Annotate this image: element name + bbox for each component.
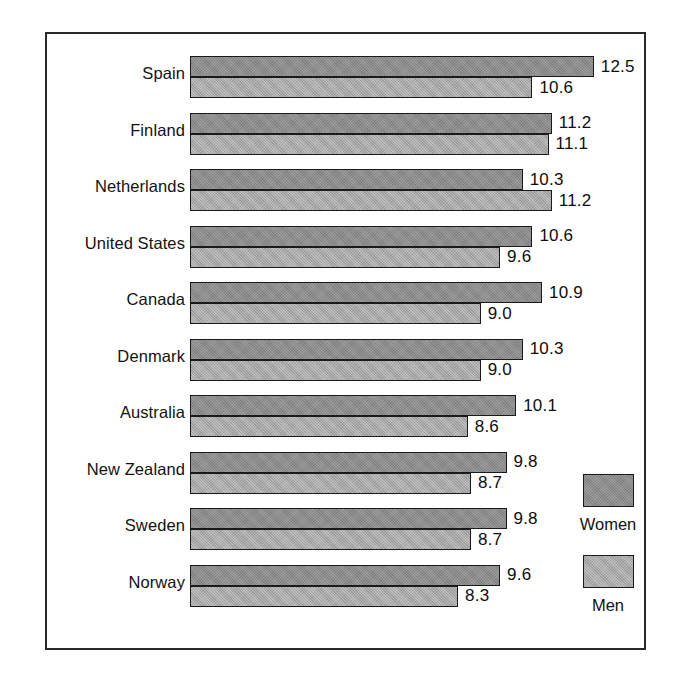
bar-value-label: 8.6 bbox=[475, 417, 499, 437]
bar-row-men: 8.3 bbox=[190, 586, 528, 607]
bar-row-men: 8.7 bbox=[190, 473, 541, 494]
bar-group: Denmark10.39.0 bbox=[47, 339, 644, 383]
bar-row-men: 9.0 bbox=[190, 360, 551, 381]
bar-group: Australia10.18.6 bbox=[47, 395, 644, 439]
bar-women[interactable] bbox=[190, 113, 552, 134]
bar-value-label: 10.6 bbox=[539, 78, 573, 98]
bar-row-women: 10.1 bbox=[190, 395, 586, 416]
bar-men[interactable] bbox=[190, 303, 481, 324]
legend-entry-women[interactable]: Women bbox=[575, 474, 641, 534]
bar-row-women: 11.2 bbox=[190, 113, 622, 134]
category-label: New Zealand bbox=[0, 460, 185, 479]
bar-women[interactable] bbox=[190, 565, 500, 586]
bar-value-label: 9.6 bbox=[507, 247, 531, 267]
category-label: Norway bbox=[0, 573, 185, 592]
bar-group: Canada10.99.0 bbox=[47, 282, 644, 326]
bar-women[interactable] bbox=[190, 226, 532, 247]
bar-row-men: 9.6 bbox=[190, 247, 570, 268]
category-label: Denmark bbox=[0, 347, 185, 366]
bar-men[interactable] bbox=[190, 360, 481, 381]
bar-value-label: 10.6 bbox=[539, 226, 573, 246]
bar-row-women: 12.5 bbox=[190, 56, 664, 77]
bar-men[interactable] bbox=[190, 247, 500, 268]
category-label: Netherlands bbox=[0, 177, 185, 196]
bar-row-women: 10.6 bbox=[190, 226, 602, 247]
bar-women[interactable] bbox=[190, 339, 523, 360]
bar-group: Norway9.68.3 bbox=[47, 565, 644, 609]
bar-women[interactable] bbox=[190, 282, 542, 303]
legend-label: Women bbox=[575, 515, 641, 534]
bar-row-men: 11.2 bbox=[190, 190, 622, 211]
bar-men[interactable] bbox=[190, 190, 552, 211]
bar-men[interactable] bbox=[190, 77, 532, 98]
category-label: Finland bbox=[0, 121, 185, 140]
bar-row-women: 10.9 bbox=[190, 282, 612, 303]
bar-women[interactable] bbox=[190, 452, 507, 473]
bar-value-label: 10.3 bbox=[530, 170, 564, 190]
bar-value-label: 11.2 bbox=[559, 191, 592, 211]
bar-value-label: 8.3 bbox=[465, 586, 489, 606]
category-label: Spain bbox=[0, 64, 185, 83]
bar-group: Spain12.510.6 bbox=[47, 56, 644, 100]
bar-value-label: 10.3 bbox=[530, 339, 564, 359]
bar-value-label: 9.6 bbox=[507, 565, 531, 585]
bar-value-label: 8.7 bbox=[478, 530, 502, 550]
bar-group: Sweden9.88.7 bbox=[47, 508, 644, 552]
bar-group: Netherlands10.311.2 bbox=[47, 169, 644, 213]
category-label: Canada bbox=[0, 290, 185, 309]
bar-row-women: 9.6 bbox=[190, 565, 570, 586]
bar-men[interactable] bbox=[190, 473, 471, 494]
bar-row-women: 10.3 bbox=[190, 339, 593, 360]
category-label: United States bbox=[0, 234, 185, 253]
bar-value-label: 9.8 bbox=[514, 452, 538, 472]
bar-row-men: 10.6 bbox=[190, 77, 602, 98]
bar-row-men: 8.7 bbox=[190, 529, 541, 550]
legend-swatch-men bbox=[583, 555, 634, 588]
bar-group: Finland11.211.1 bbox=[47, 113, 644, 157]
legend-entry-men[interactable]: Men bbox=[575, 555, 641, 615]
bar-row-men: 11.1 bbox=[190, 134, 619, 155]
bar-row-men: 8.6 bbox=[190, 416, 538, 437]
bar-value-label: 8.7 bbox=[478, 473, 502, 493]
bar-row-women: 9.8 bbox=[190, 452, 577, 473]
bar-women[interactable] bbox=[190, 56, 594, 77]
bar-value-label: 11.1 bbox=[556, 134, 589, 154]
chart-frame: Spain12.510.6Finland11.211.1Netherlands1… bbox=[45, 32, 646, 650]
bar-women[interactable] bbox=[190, 169, 523, 190]
bar-value-label: 9.0 bbox=[488, 304, 512, 324]
bar-men[interactable] bbox=[190, 586, 458, 607]
bar-value-label: 10.9 bbox=[549, 283, 583, 303]
category-label: Sweden bbox=[0, 516, 185, 535]
bar-women[interactable] bbox=[190, 508, 507, 529]
bar-row-men: 9.0 bbox=[190, 303, 551, 324]
bar-men[interactable] bbox=[190, 529, 471, 550]
bar-men[interactable] bbox=[190, 134, 549, 155]
legend-swatch-women bbox=[583, 474, 634, 507]
bar-men[interactable] bbox=[190, 416, 468, 437]
bar-row-women: 10.3 bbox=[190, 169, 593, 190]
bar-row-women: 9.8 bbox=[190, 508, 577, 529]
bar-group: New Zealand9.88.7 bbox=[47, 452, 644, 496]
bar-group: United States10.69.6 bbox=[47, 226, 644, 270]
category-label: Australia bbox=[0, 403, 185, 422]
bar-value-label: 9.0 bbox=[488, 360, 512, 380]
bar-women[interactable] bbox=[190, 395, 516, 416]
bar-value-label: 11.2 bbox=[559, 113, 592, 133]
plot-area: Spain12.510.6Finland11.211.1Netherlands1… bbox=[47, 34, 644, 648]
bar-value-label: 10.1 bbox=[523, 396, 557, 416]
legend-label: Men bbox=[575, 596, 641, 615]
bar-value-label: 12.5 bbox=[601, 57, 635, 77]
bar-value-label: 9.8 bbox=[514, 509, 538, 529]
